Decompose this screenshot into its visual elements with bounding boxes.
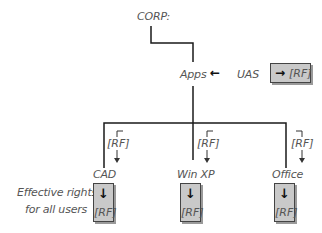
effective-rights-cad: [RF]: [94, 207, 113, 218]
child-label-office: Office: [272, 169, 303, 180]
effective-rights-box-winxp: ↓ [RF]: [180, 183, 201, 222]
container-label-apps: Apps: [180, 69, 206, 80]
down-arrow-icon: ↓: [94, 187, 113, 200]
assigned-rights: [RF]: [289, 68, 312, 79]
effective-rights-office: [RF]: [275, 207, 294, 218]
effective-rights-note-line2: for all users: [25, 204, 87, 215]
root-label: CORP:: [137, 11, 170, 22]
effective-rights-box-cad: ↓ [RF]: [93, 183, 114, 222]
right-arrow-icon: →: [275, 67, 285, 79]
inherited-rights-cad: [RF]: [107, 138, 130, 149]
inherited-rights-office: [RF]: [291, 138, 314, 149]
down-arrow-icon: ↓: [181, 187, 200, 200]
left-arrow-icon: ←: [210, 67, 220, 79]
trustee-label: UAS: [237, 69, 259, 80]
trustee-assignment-box: → [RF]: [270, 63, 311, 83]
effective-rights-box-office: ↓ [RF]: [274, 183, 295, 222]
effective-rights-winxp: [RF]: [181, 207, 200, 218]
inherited-rights-winxp: [RF]: [197, 138, 220, 149]
child-label-cad: CAD: [93, 169, 116, 180]
effective-rights-note-line1: Effective rights: [17, 187, 97, 198]
down-arrow-icon: ↓: [275, 187, 294, 200]
child-label-winxp: Win XP: [177, 169, 214, 180]
